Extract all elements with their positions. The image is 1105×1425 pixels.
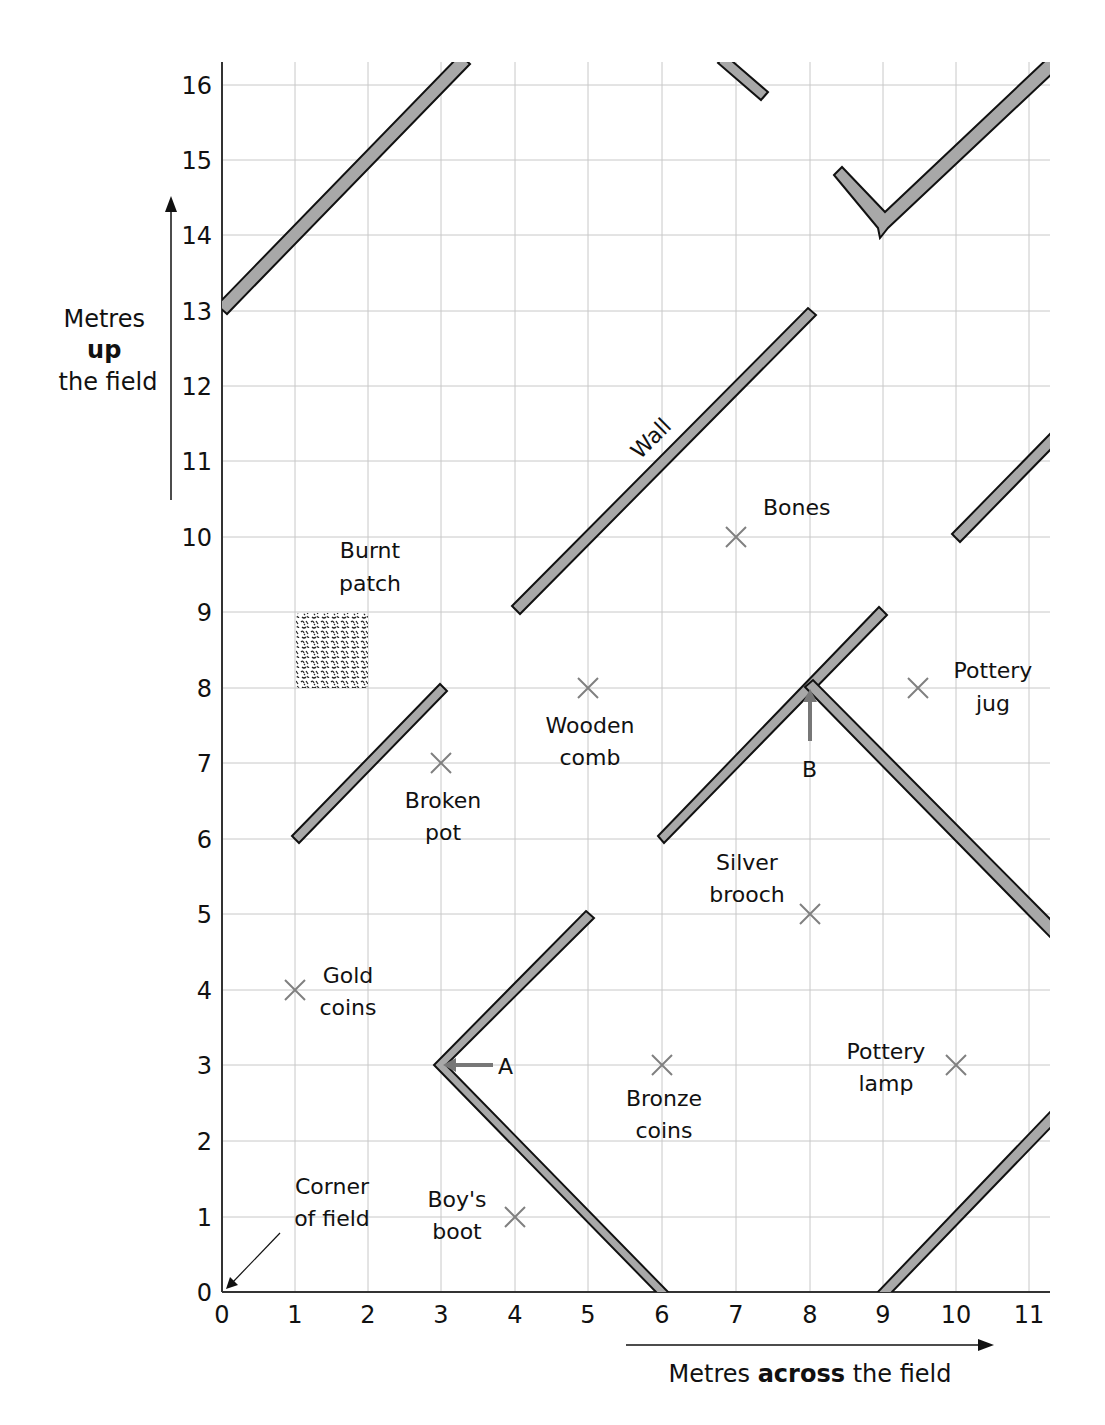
svg-text:3: 3 <box>433 1301 448 1329</box>
burnt-patch <box>296 613 368 688</box>
svg-text:11: 11 <box>1014 1301 1045 1329</box>
svg-text:9: 9 <box>197 599 212 627</box>
pottery-jug-label: Potteryjug <box>954 658 1033 716</box>
svg-text:1: 1 <box>197 1204 212 1232</box>
bronze-coins-label: Bronzecoins <box>626 1086 702 1143</box>
svg-text:7: 7 <box>197 750 212 778</box>
svg-text:9: 9 <box>875 1301 890 1329</box>
y-axis-label: Metres up the field <box>59 305 158 396</box>
svg-text:0: 0 <box>214 1301 229 1329</box>
svg-text:14: 14 <box>181 222 212 250</box>
x-tick-labels: 01 23 45 67 89 1011 <box>214 1301 1044 1329</box>
svg-text:6: 6 <box>654 1301 669 1329</box>
svg-text:10: 10 <box>181 524 212 552</box>
svg-text:10: 10 <box>941 1301 972 1329</box>
svg-text:8: 8 <box>802 1301 817 1329</box>
wall-segment <box>805 680 1055 942</box>
wooden-comb-label: Woodencomb <box>546 713 635 770</box>
svg-text:12: 12 <box>181 373 212 401</box>
corner-of-field-label: Cornerof field <box>294 1174 370 1231</box>
svg-text:1: 1 <box>287 1301 302 1329</box>
wall-segment <box>952 432 1052 542</box>
corner-pointer <box>226 1233 280 1289</box>
pottery-lamp-label: Potterylamp <box>847 1039 926 1096</box>
svg-text:5: 5 <box>580 1301 595 1329</box>
x-axis-arrowhead <box>978 1339 994 1351</box>
svg-text:3: 3 <box>197 1052 212 1080</box>
excavation-map: A B Goldcoins Brokenpot Woodencomb Bones… <box>0 0 1105 1425</box>
svg-text:13: 13 <box>181 298 212 326</box>
svg-text:4: 4 <box>507 1301 522 1329</box>
pointer-b: B <box>802 689 817 782</box>
boys-boot-label: Boy'sboot <box>427 1187 486 1244</box>
label-b: B <box>802 757 817 782</box>
svg-text:16: 16 <box>181 72 212 100</box>
svg-text:4: 4 <box>197 977 212 1005</box>
svg-text:11: 11 <box>181 448 212 476</box>
svg-text:2: 2 <box>360 1301 375 1329</box>
silver-brooch-label: Silverbrooch <box>709 850 785 907</box>
x-axis-label: Metres across the field <box>669 1360 952 1388</box>
y-tick-labels: 01 23 45 67 89 1011 1213 1415 16 <box>181 72 212 1307</box>
svg-text:2: 2 <box>197 1128 212 1156</box>
svg-text:15: 15 <box>181 147 212 175</box>
wall-segment <box>217 55 470 314</box>
y-axis-arrowhead <box>165 196 177 212</box>
wall-segment <box>876 1110 1052 1294</box>
svg-text:7: 7 <box>728 1301 743 1329</box>
svg-text:6: 6 <box>197 826 212 854</box>
burnt-patch-label: Burntpatch <box>339 538 401 596</box>
svg-text:8: 8 <box>197 675 212 703</box>
svg-text:0: 0 <box>197 1279 212 1307</box>
svg-text:5: 5 <box>197 901 212 929</box>
broken-pot-label: Brokenpot <box>405 788 482 845</box>
bones-label: Bones <box>763 495 831 520</box>
wall-segment <box>718 55 768 100</box>
label-a: A <box>498 1054 513 1079</box>
